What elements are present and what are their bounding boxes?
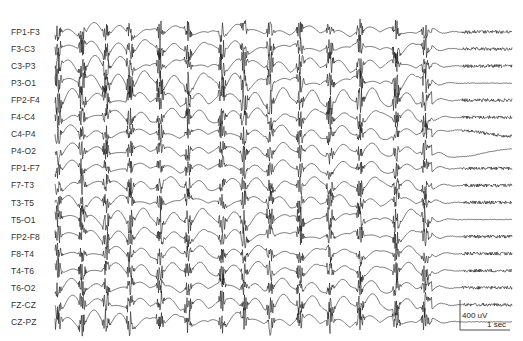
- eeg-figure: FP1-F3F3-C3C3-P3P3-O1FP2-F4F4-C4C4-P4P4-…: [0, 0, 523, 341]
- eeg-trace-t6-o2: [55, 274, 512, 297]
- eeg-trace-fp2-f4: [55, 86, 512, 114]
- eeg-trace-cz-pz: [55, 308, 512, 336]
- calibration-time-label: 1 sec: [487, 320, 506, 329]
- eeg-traces: [0, 0, 523, 341]
- eeg-trace-f4-c4: [55, 104, 512, 131]
- eeg-trace-t4-t6: [55, 259, 512, 285]
- eeg-trace-t5-o1: [55, 206, 512, 234]
- eeg-trace-fp2-f8: [55, 223, 512, 251]
- eeg-trace-fp1-f3: [55, 19, 512, 44]
- eeg-trace-fz-cz: [55, 291, 512, 319]
- eeg-trace-fp1-f7: [55, 155, 512, 179]
- eeg-trace-c4-p4: [55, 121, 512, 146]
- calibration-amplitude-label: 400 uV: [462, 311, 487, 320]
- eeg-trace-t3-t5: [55, 189, 512, 215]
- eeg-trace-p4-o2: [55, 140, 512, 165]
- eeg-trace-p3-o1: [55, 69, 512, 97]
- eeg-trace-c3-p3: [55, 52, 512, 80]
- eeg-trace-f8-t4: [55, 243, 512, 266]
